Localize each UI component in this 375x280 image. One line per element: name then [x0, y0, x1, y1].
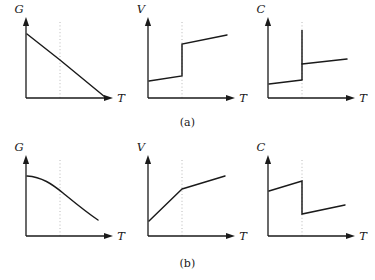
x-axis-arrow: [346, 95, 355, 101]
panel-v-second-order: V T: [130, 140, 248, 252]
y-axis-arrow: [265, 155, 271, 164]
x-axis-label: T: [117, 229, 126, 243]
x-axis-arrow: [346, 233, 355, 239]
y-axis-arrow: [23, 17, 29, 26]
panel-c-first-order: C T: [250, 2, 368, 114]
y-axis-label: C: [257, 2, 266, 16]
curve-g-second-order: [27, 176, 98, 220]
x-axis-label: T: [117, 91, 126, 105]
caption-a: (a): [0, 116, 375, 129]
y-axis-label: V: [137, 140, 147, 154]
y-axis-arrow: [145, 17, 151, 26]
caption-b: (b): [0, 257, 375, 270]
curve-c-second-order: [269, 181, 345, 214]
panel-c-second-order: C T: [250, 140, 368, 252]
y-axis-arrow: [265, 17, 271, 26]
x-axis-arrow: [226, 233, 235, 239]
y-axis-label: G: [14, 140, 23, 154]
x-axis-label: T: [359, 229, 368, 243]
curve-c-below-tc: [269, 80, 302, 84]
curve-g-first-order: [27, 34, 105, 97]
curve-c-above-tc: [302, 59, 347, 64]
y-axis-label: C: [257, 140, 266, 154]
x-axis-label: T: [239, 229, 248, 243]
x-axis-label: T: [359, 91, 368, 105]
y-axis-arrow: [145, 155, 151, 164]
x-axis-arrow: [226, 95, 235, 101]
panel-v-first-order: V T: [130, 2, 248, 114]
curve-v-first-order: [149, 35, 227, 81]
phase-transition-figure: G T V T: [0, 0, 375, 280]
x-axis-label: T: [239, 91, 248, 105]
curve-v-second-order: [149, 176, 225, 221]
y-axis-arrow: [23, 155, 29, 164]
x-axis-arrow: [104, 233, 113, 239]
panel-g-first-order: G T: [8, 2, 126, 114]
figure-row-a: G T V T: [0, 2, 375, 127]
x-axis-arrow: [104, 95, 113, 101]
figure-row-b: G T V T: [0, 140, 375, 265]
y-axis-label: V: [137, 2, 147, 16]
panel-g-second-order: G T: [8, 140, 126, 252]
y-axis-label: G: [14, 2, 23, 16]
